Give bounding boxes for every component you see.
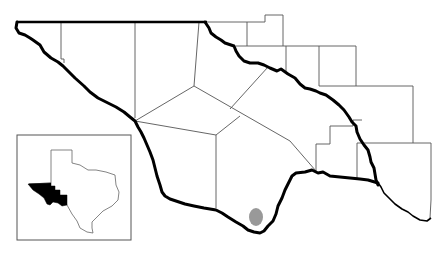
county-line (194, 22, 199, 86)
site-marker (249, 208, 263, 226)
river-boundary-southeast (376, 180, 431, 221)
county-line (319, 86, 413, 143)
county-line (61, 22, 64, 63)
county-line (290, 141, 316, 171)
map-canvas (0, 0, 446, 254)
county-line (205, 15, 283, 46)
county-line (230, 67, 268, 109)
county-line (135, 86, 290, 141)
texas-locator-inset (17, 135, 131, 240)
county-line (135, 116, 240, 135)
